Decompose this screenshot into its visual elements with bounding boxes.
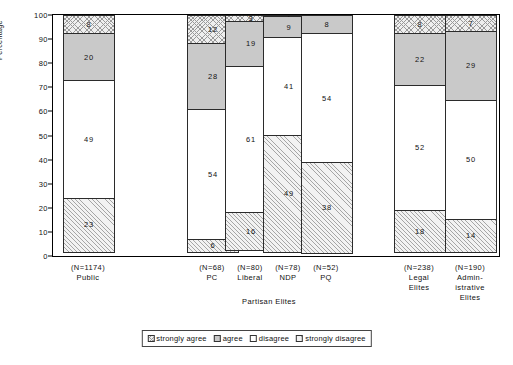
sample-size-label: (N=190) [435, 263, 505, 273]
segment-value-label: 12 [208, 26, 218, 34]
category-name-line: Elites [435, 293, 505, 303]
bar-public[interactable]: 8204923 [63, 15, 115, 256]
legend-label: strongly agree [156, 334, 206, 343]
y-tick-label: 40 [0, 155, 48, 164]
segment-value-label: 38 [322, 204, 332, 212]
group-label: Partisan Elites [209, 297, 329, 306]
bar-segment-sa[interactable]: 8 [394, 15, 446, 34]
segment-value-label: 6 [211, 242, 216, 250]
segment-value-label: 22 [415, 56, 425, 64]
segment-value-label: 3 [249, 15, 254, 22]
segment-value-label: 28 [208, 73, 218, 81]
y-tick-label: 100 [0, 11, 48, 20]
legend-swatch-agree [214, 335, 221, 342]
segment-value-label: 20 [84, 54, 94, 62]
bar-segment-sd[interactable]: 14 [445, 219, 497, 253]
bar-segment-sa[interactable]: 7 [445, 15, 497, 32]
legend-item[interactable]: disagree [250, 334, 289, 343]
category-name-line: Public [53, 273, 123, 283]
bar-segment-sd[interactable]: 18 [394, 210, 446, 253]
segment-value-label: 61 [246, 136, 256, 144]
y-tick-label: 80 [0, 59, 48, 68]
category-name-line: istrative [435, 283, 505, 293]
segment-value-label: 8 [325, 21, 330, 29]
x-axis-label-pq: (N=52)PQ [291, 263, 361, 283]
segment-value-label: 54 [322, 95, 332, 103]
segment-value-label: 18 [415, 228, 425, 236]
segment-value-label: 50 [466, 156, 476, 164]
sample-size-label: (N=52) [291, 263, 361, 273]
bar-segment-a[interactable]: 20 [63, 33, 115, 81]
segment-value-label: 16 [246, 228, 256, 236]
bar-segment-d[interactable]: 49 [63, 80, 115, 198]
bar-segment-sa[interactable]: 8 [63, 15, 115, 34]
legend-label: strongly disagree [305, 334, 366, 343]
sample-size-label: (N=1174) [53, 263, 123, 273]
y-tick-label: 0 [0, 252, 48, 261]
segment-value-label: 8 [87, 21, 92, 29]
segment-value-label: 9 [287, 24, 292, 32]
bar-segment-sd[interactable]: 23 [63, 198, 115, 253]
segment-value-label: 49 [84, 136, 94, 144]
segment-value-label: 7 [469, 20, 474, 28]
legend-item[interactable]: agree [214, 334, 243, 343]
legend: strongly agree agree disagree strongly d… [141, 330, 371, 347]
bar-segment-a[interactable]: 22 [394, 33, 446, 86]
segment-value-label: 14 [466, 232, 476, 240]
legend-label: disagree [259, 334, 289, 343]
legend-item[interactable]: strongly agree [147, 334, 206, 343]
y-tick-label: 60 [0, 107, 48, 116]
bar-segment-d[interactable]: 54 [301, 33, 353, 163]
y-tick-label: 90 [0, 35, 48, 44]
segment-value-label: 52 [415, 144, 425, 152]
legend-swatch-disagree [250, 335, 257, 342]
bar-pq[interactable]: 85438 [301, 15, 353, 256]
segment-value-label: 54 [208, 171, 218, 179]
segment-value-label: 19 [246, 40, 256, 48]
segment-value-label: 8 [418, 21, 423, 29]
legend-item[interactable]: strongly disagree [296, 334, 366, 343]
y-tick-label: 10 [0, 227, 48, 236]
bar-segment-a[interactable]: 29 [445, 31, 497, 101]
category-name-line: Admin- [435, 273, 505, 283]
bar-administrative-elites[interactable]: 7295014 [445, 15, 497, 256]
segment-value-label: 49 [284, 190, 294, 198]
plot-area: 8204923122854631961161941498543882252187… [52, 14, 500, 257]
bar-segment-a[interactable]: 8 [301, 15, 353, 34]
bar-segment-d[interactable]: 50 [445, 100, 497, 221]
chart-root: Percentage 0102030405060708090100 820492… [0, 0, 513, 365]
x-axis-label-administrative-elites: (N=190)Admin-istrativeElites [435, 263, 505, 303]
category-name-line: PQ [291, 273, 361, 283]
y-tick-label: 20 [0, 203, 48, 212]
legend-swatch-strongly-disagree [296, 335, 303, 342]
segment-value-label: 41 [284, 83, 294, 91]
x-axis-label-public: (N=1174)Public [53, 263, 123, 283]
segment-value-label: 29 [466, 62, 476, 70]
y-tick-label: 30 [0, 179, 48, 188]
bar-segment-d[interactable]: 52 [394, 85, 446, 210]
y-tick-label: 70 [0, 83, 48, 92]
y-tick-label: 50 [0, 131, 48, 140]
segment-value-label: 23 [84, 221, 94, 229]
bar-segment-sd[interactable]: 38 [301, 162, 353, 254]
bar-legal-elites[interactable]: 8225218 [394, 15, 446, 256]
legend-swatch-strongly-agree [147, 335, 154, 342]
legend-label: agree [223, 334, 243, 343]
